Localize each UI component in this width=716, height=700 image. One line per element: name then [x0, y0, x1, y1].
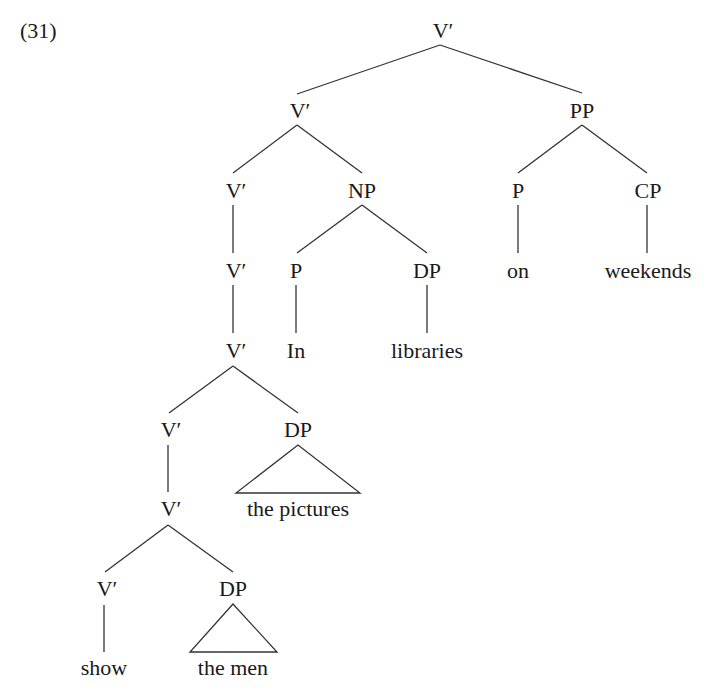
node-vbar-3: V′	[226, 178, 247, 203]
tree-nodes: V′ V′ PP V′ NP P CP V′ P DP on weekends …	[81, 18, 692, 680]
node-p-in: P	[290, 258, 302, 283]
leaf-the-pictures: the pictures	[247, 496, 349, 521]
node-dp-men: DP	[219, 576, 247, 601]
leaf-the-men: the men	[198, 655, 268, 680]
node-root-vbar: V′	[433, 18, 454, 43]
node-vbar-6: V′	[161, 417, 182, 442]
node-vbar-5: V′	[226, 338, 247, 363]
leaf-weekends: weekends	[605, 258, 692, 283]
node-vbar-8: V′	[97, 576, 118, 601]
example-number: (31)	[20, 18, 57, 43]
node-dp-pictures: DP	[284, 417, 312, 442]
node-p-on: P	[512, 178, 524, 203]
leaf-libraries: libraries	[391, 338, 463, 363]
leaf-in: In	[287, 338, 305, 363]
node-np: NP	[348, 178, 376, 203]
node-vbar-7: V′	[161, 496, 182, 521]
node-cp: CP	[635, 178, 662, 203]
tree-edges	[104, 45, 647, 652]
leaf-on: on	[507, 258, 529, 283]
node-vbar-4: V′	[226, 258, 247, 283]
node-pp: PP	[570, 98, 594, 123]
node-vbar-2: V′	[290, 98, 311, 123]
node-dp-libraries: DP	[413, 258, 441, 283]
leaf-show: show	[81, 655, 128, 680]
syntax-tree-diagram: (31)	[0, 0, 716, 700]
